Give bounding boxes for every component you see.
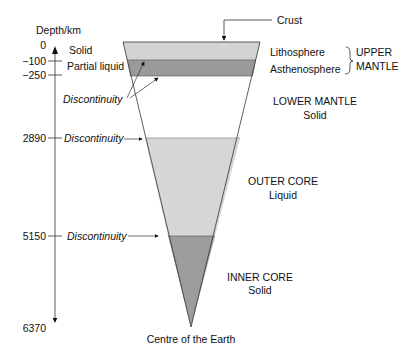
tick-6370: 6370: [23, 323, 46, 334]
label-discontinuity-2: Discontinuity: [64, 133, 124, 144]
earth-structure-diagram: [0, 0, 410, 358]
layer-inner-core: [168, 236, 215, 327]
label-lower-mantle-state: Solid: [303, 110, 326, 121]
tick-0: 0: [40, 40, 46, 51]
label-inner-core-state: Solid: [248, 285, 271, 296]
label-centre: Centre of the Earth: [147, 334, 236, 345]
label-lithosphere: Lithosphere: [270, 47, 325, 58]
label-upper-mantle-2: MANTLE: [356, 61, 399, 72]
label-lower-mantle: LOWER MANTLE: [273, 96, 357, 107]
tick-100: −100: [22, 56, 46, 67]
label-discontinuity-3: Discontinuity: [67, 231, 127, 242]
tick-2890: 2890: [23, 133, 46, 144]
label-outer-core-state: Liquid: [269, 190, 297, 201]
label-outer-core: OUTER CORE: [248, 176, 318, 187]
label-crust: Crust: [277, 15, 302, 26]
layer-asthenosphere: [127, 60, 256, 76]
layer-outer-core: [145, 138, 240, 236]
layer-lower-mantle: [130, 76, 253, 138]
upper-mantle-brace: [345, 47, 353, 74]
label-discontinuity-1: Discontinuity: [63, 94, 123, 105]
crust-pointer: [224, 20, 272, 40]
layer-lithosphere: [123, 42, 260, 60]
label-asthenosphere: Asthenosphere: [270, 64, 341, 75]
tick-250: −250: [22, 70, 46, 81]
label-solid: Solid: [69, 45, 92, 56]
label-inner-core: INNER CORE: [227, 272, 293, 283]
label-partial-liquid: Partial liquid: [67, 61, 124, 72]
label-upper-mantle-1: UPPER: [356, 47, 392, 58]
axis-label: Depth/km: [36, 25, 81, 36]
tick-5150: 5150: [23, 231, 46, 242]
